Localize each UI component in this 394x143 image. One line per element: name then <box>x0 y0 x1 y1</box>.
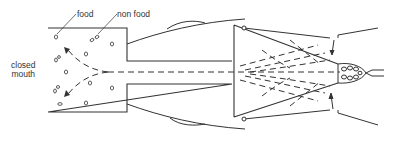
hinge-arm-bottom <box>244 110 330 119</box>
fin-top <box>167 21 205 29</box>
non-food-particle <box>90 38 95 42</box>
non-food-particle <box>54 89 57 93</box>
food-particle <box>58 103 62 106</box>
food-particle <box>84 52 87 56</box>
hinge-pivot-bottom <box>242 117 246 121</box>
non-food-particle <box>58 56 61 59</box>
food-particle <box>88 81 91 85</box>
label-food: food <box>77 10 94 19</box>
food-particle <box>110 42 113 46</box>
particle-cluster <box>338 63 366 83</box>
non-food-particle <box>55 58 58 62</box>
food-particle <box>84 101 87 105</box>
arrow-bottom <box>329 93 333 109</box>
hinge-arm-top <box>244 28 330 38</box>
food-particle <box>54 35 57 39</box>
dashed-flow-lines <box>240 40 330 106</box>
particles <box>54 35 114 106</box>
diagram-canvas <box>0 0 394 143</box>
non-food-particle <box>56 86 59 89</box>
non-food-particle <box>95 35 100 39</box>
arrowhead-down <box>64 90 70 97</box>
food-particle <box>64 70 67 74</box>
body-outline-top <box>127 19 245 44</box>
exit-duct <box>366 70 384 76</box>
non-food-leader-line <box>98 14 117 34</box>
mouth-chamber-outline <box>48 28 232 112</box>
hinge-pivot-top <box>242 26 246 30</box>
mouth-flow-arrows <box>68 50 108 94</box>
outer-body-right-bottom <box>338 110 378 125</box>
arrow-top <box>330 40 334 55</box>
label-closed-line2: mouth <box>11 70 36 79</box>
arrowhead-up <box>64 47 70 54</box>
feeding-flow-diagram: food non food closed mouth <box>0 0 394 143</box>
body-outline-bottom <box>127 104 245 129</box>
filter-chamber-outline <box>234 25 338 117</box>
label-closed-mouth: closed mouth <box>11 61 36 79</box>
label-non-food: non food <box>117 10 150 19</box>
food-particle <box>110 86 113 90</box>
food-leader-line <box>57 14 76 34</box>
outer-body-right-top <box>338 28 378 38</box>
